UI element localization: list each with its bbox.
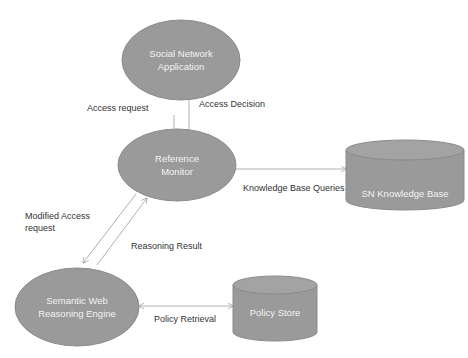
edge-label-modified-access: Modified Access request bbox=[25, 210, 90, 234]
label-line: Monitor bbox=[155, 165, 199, 178]
label-line: Social Network bbox=[149, 47, 212, 60]
node-sn-knowledge-base-label: SN Knowledge Base bbox=[361, 187, 448, 200]
label-line: Semantic Web bbox=[38, 294, 116, 307]
node-reference-monitor-label: Reference Monitor bbox=[155, 152, 199, 178]
edge-label-kb-queries: Knowledge Base Queries bbox=[243, 182, 345, 194]
label-line: Reference bbox=[155, 152, 199, 165]
node-sn-knowledge-base bbox=[346, 140, 464, 210]
edge-label-access-request: Access request bbox=[87, 102, 149, 114]
label-line: Reasoning Engine bbox=[38, 307, 116, 320]
edge-label-access-decision: Access Decision bbox=[199, 98, 265, 110]
node-reasoning-engine-label: Semantic Web Reasoning Engine bbox=[38, 294, 116, 320]
label-line: Application bbox=[149, 60, 212, 73]
edge-label-reasoning-result: Reasoning Result bbox=[131, 240, 202, 252]
edge-modified-access bbox=[83, 194, 136, 263]
node-social-network-label: Social Network Application bbox=[149, 47, 212, 73]
label-line: request bbox=[25, 222, 90, 234]
edge-reasoning-result bbox=[97, 198, 147, 265]
node-policy-store-label: Policy Store bbox=[250, 306, 301, 319]
edge-label-policy-retrieval: Policy Retrieval bbox=[154, 313, 216, 325]
label-line: Modified Access bbox=[25, 210, 90, 222]
